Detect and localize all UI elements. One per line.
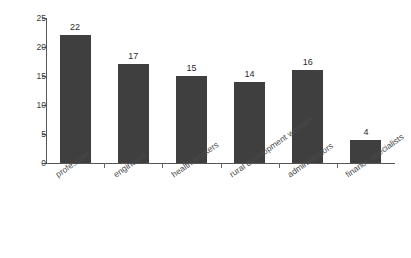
bar-value-label: 4 (346, 128, 386, 137)
y-axis-tick-label: 20 (8, 43, 46, 52)
y-axis-tick-label: 25 (8, 14, 46, 23)
y-axis-tick-label: 10 (8, 101, 46, 110)
bar-value-label: 14 (230, 70, 270, 79)
x-axis-tick-mark (337, 163, 338, 168)
y-axis-tick: 5 (0, 134, 46, 135)
y-axis-tick-label: 5 (8, 130, 46, 139)
x-axis-tick-mark (162, 163, 163, 168)
y-axis-tick: 25 (0, 18, 46, 19)
plot-area: percent 0510152025 22171514164 professor… (0, 0, 411, 258)
y-axis-tick-label: 15 (8, 72, 46, 81)
bar-value-label: 15 (171, 64, 211, 73)
bar-chart: percent 0510152025 22171514164 professor… (0, 0, 411, 258)
y-axis-tick: 15 (0, 76, 46, 77)
y-axis-tick: 0 (0, 163, 46, 164)
bar (60, 35, 91, 163)
x-axis-tick-mark (279, 163, 280, 168)
y-axis-line (46, 18, 47, 164)
bar-value-label: 16 (288, 58, 328, 67)
bar-value-label: 22 (55, 23, 95, 32)
x-axis-tick-mark (221, 163, 222, 168)
y-axis-tick: 20 (0, 47, 46, 48)
bar-value-label: 17 (113, 52, 153, 61)
bar (118, 64, 149, 163)
x-axis-tick-mark (104, 163, 105, 168)
y-axis-tick: 10 (0, 105, 46, 106)
y-axis-tick-label: 0 (8, 159, 46, 168)
